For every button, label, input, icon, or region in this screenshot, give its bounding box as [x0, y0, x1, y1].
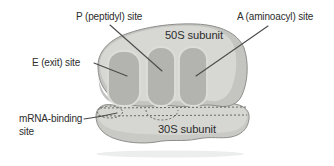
small-subunit-label: 30S subunit — [158, 123, 216, 136]
p-site-label: P (peptidyl) site — [76, 10, 142, 23]
e-site-groove — [108, 51, 140, 106]
ribosome-diagram: P (peptidyl) site A (aminoacyl) site 50S… — [0, 0, 334, 166]
mrna-binding-label: mRNA-binding site — [19, 112, 91, 138]
mrna-binding-label-line1: mRNA-binding — [19, 112, 91, 125]
diagram-canvas — [0, 0, 334, 166]
mrna-binding-label-line2: site — [19, 125, 91, 138]
page-artifact-shadow — [96, 151, 244, 158]
p-site-groove — [147, 47, 175, 106]
e-site-label: E (exit) site — [32, 56, 80, 69]
a-site-groove — [179, 47, 207, 106]
large-subunit-label: 50S subunit — [165, 29, 223, 42]
a-site-label: A (aminoacyl) site — [237, 10, 313, 23]
